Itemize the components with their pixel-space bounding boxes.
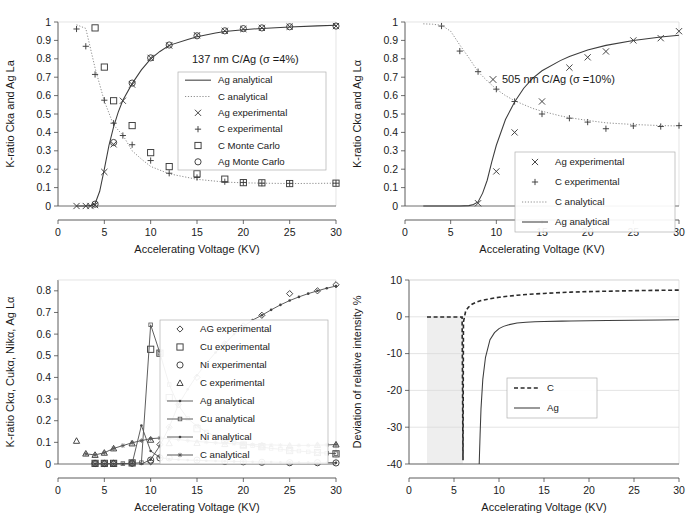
y-tick-label: 0.1 bbox=[36, 436, 51, 448]
marker-plus bbox=[333, 180, 339, 186]
marker-square bbox=[92, 25, 98, 31]
chart-panel-top-right: 00.10.20.30.40.50.60.70.80.9105101520253… bbox=[347, 0, 693, 258]
marker-plus bbox=[630, 123, 636, 129]
marker-star bbox=[84, 452, 88, 456]
marker-x bbox=[603, 48, 609, 54]
y-tick-label: 1 bbox=[392, 16, 398, 28]
marker-dot bbox=[279, 304, 282, 307]
marker-plus bbox=[566, 115, 572, 121]
marker-dot bbox=[307, 292, 310, 295]
marker-plus bbox=[287, 180, 293, 186]
y-tick-label: 0.2 bbox=[36, 414, 51, 426]
marker-x bbox=[120, 98, 126, 104]
y-tick-label: 0.3 bbox=[36, 393, 51, 405]
legend: Ag analyticalC analyticalAg experimental… bbox=[178, 72, 326, 170]
x-tick-label: 10 bbox=[490, 226, 502, 238]
legend-label: Cu experimental bbox=[200, 341, 270, 352]
marker-star bbox=[130, 441, 134, 445]
legend-label: C Monte Carlo bbox=[218, 140, 280, 151]
marker-plus bbox=[129, 142, 135, 148]
y-tick-label: 0.4 bbox=[383, 126, 398, 138]
marker-dot bbox=[335, 285, 338, 288]
chart-panel-bottom-right: -40-30-20-10010051015202530Accelerating … bbox=[347, 258, 693, 516]
panel-br-svg: -40-30-20-10010051015202530Accelerating … bbox=[347, 258, 693, 516]
legend-label: Ni experimental bbox=[200, 359, 267, 370]
series-0 bbox=[427, 290, 679, 460]
marker-x bbox=[490, 76, 497, 83]
marker-star bbox=[139, 438, 143, 442]
x-tick-label: 20 bbox=[583, 484, 595, 496]
y-tick-label: 0.9 bbox=[383, 34, 398, 46]
marker-dot bbox=[122, 462, 125, 465]
legend-label: C experimental bbox=[200, 377, 265, 388]
marker-plus bbox=[166, 170, 172, 176]
y-tick-label: -40 bbox=[387, 458, 402, 470]
marker-dot bbox=[298, 296, 301, 299]
legend-label: C experimental bbox=[555, 176, 620, 187]
x-tick-label: 0 bbox=[406, 484, 412, 496]
legend-label: Ag bbox=[547, 402, 559, 413]
panel-tr-svg: 00.10.20.30.40.50.60.70.80.9105101520253… bbox=[347, 0, 693, 258]
y-tick-label: 0 bbox=[45, 458, 51, 470]
marker-dot bbox=[270, 309, 273, 312]
marker-dot bbox=[261, 314, 264, 317]
y-axis-title: K-ratio Cka and Ag La bbox=[4, 59, 16, 168]
marker-star bbox=[111, 446, 115, 450]
x-axis-title: Accelerating Voltage (KV) bbox=[479, 243, 604, 255]
x-tick-label: 30 bbox=[330, 226, 342, 238]
y-tick-label: 1 bbox=[45, 16, 51, 28]
chart-panel-bottom-left: 00.10.20.30.40.50.60.70.8051015202530Acc… bbox=[0, 258, 350, 516]
marker-star bbox=[148, 436, 152, 440]
y-tick-label: 0.7 bbox=[36, 306, 51, 318]
x-tick-label: 15 bbox=[538, 484, 550, 496]
marker-plus bbox=[222, 179, 228, 185]
x-tick-label: 10 bbox=[145, 484, 157, 496]
y-tick-label: -30 bbox=[387, 421, 402, 433]
y-tick-label: -10 bbox=[387, 347, 402, 359]
legend-label: Ag Monte Carlo bbox=[218, 156, 285, 167]
marker-dot bbox=[140, 424, 143, 427]
marker-x bbox=[539, 98, 545, 104]
marker-dot bbox=[112, 462, 115, 465]
chart-annotation: 137 nm C/Ag (σ =4%) bbox=[192, 53, 299, 65]
marker-star bbox=[334, 442, 338, 446]
y-tick-label: 0.2 bbox=[383, 163, 398, 175]
x-tick-label: 10 bbox=[145, 226, 157, 238]
x-tick-label: 30 bbox=[330, 484, 342, 496]
marker-plus bbox=[73, 26, 79, 32]
x-tick-label: 5 bbox=[448, 226, 454, 238]
marker-dot bbox=[131, 462, 134, 465]
y-tick-label: 0 bbox=[45, 200, 51, 212]
marker-plus bbox=[603, 126, 609, 132]
marker-star bbox=[121, 443, 125, 447]
y-tick-label: 0.5 bbox=[36, 108, 51, 120]
y-tick-label: -20 bbox=[387, 384, 402, 396]
legend: AG experimentalCu experimentalNi experim… bbox=[160, 320, 328, 464]
y-tick-label: 0.8 bbox=[383, 52, 398, 64]
marker-plus bbox=[438, 23, 444, 29]
x-tick-label: 25 bbox=[628, 484, 640, 496]
y-tick-label: 0.3 bbox=[383, 144, 398, 156]
marker-dot bbox=[149, 450, 152, 453]
legend-label: Ag analytical bbox=[200, 395, 254, 406]
y-tick-label: 0.1 bbox=[383, 181, 398, 193]
legend-label: Cu analytical bbox=[200, 413, 255, 424]
x-tick-label: 5 bbox=[101, 484, 107, 496]
legend-label: C bbox=[547, 382, 554, 393]
marker-plus bbox=[148, 157, 154, 163]
y-axis-title: K-ratio Ckα and Ag Lα bbox=[351, 59, 363, 168]
marker-plus bbox=[493, 86, 499, 92]
x-tick-label: 20 bbox=[237, 226, 249, 238]
y-tick-label: 0.8 bbox=[36, 284, 51, 296]
figure-container: 00.10.20.30.40.50.60.70.80.9105101520253… bbox=[0, 0, 693, 516]
y-tick-label: 0 bbox=[396, 310, 402, 322]
chart-panel-top-left: 00.10.20.30.40.50.60.70.80.9105101520253… bbox=[0, 0, 350, 258]
x-tick-label: 30 bbox=[673, 484, 685, 496]
marker-plus bbox=[83, 43, 89, 49]
y-tick-label: 10 bbox=[390, 274, 402, 286]
marker-x bbox=[512, 129, 518, 135]
y-tick-label: 0 bbox=[392, 200, 398, 212]
y-axis-title: Deviation of relative intensity % bbox=[351, 295, 363, 448]
marker-star bbox=[93, 453, 97, 457]
marker-dot bbox=[335, 461, 338, 464]
